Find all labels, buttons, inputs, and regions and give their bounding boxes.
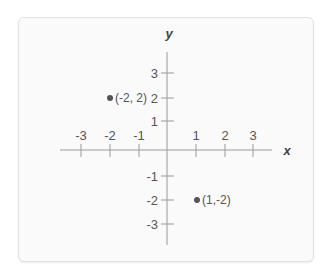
y-tick-label: -3 xyxy=(146,217,158,232)
coordinate-plane: -3 -2 -1 1 2 3 3 2 1 -1 -2 -3 y x (-2, 2… xyxy=(0,0,331,277)
x-tick-label: -1 xyxy=(133,128,145,143)
x-tick-label: -2 xyxy=(104,128,116,143)
x-tick-labels: -3 -2 -1 1 2 3 xyxy=(75,128,256,143)
y-tick-label: 1 xyxy=(151,114,158,129)
point-label: (-2, 2) xyxy=(115,91,147,105)
x-tick-label: -3 xyxy=(75,128,87,143)
y-axis-label: y xyxy=(164,26,173,41)
x-tick-label: 3 xyxy=(249,128,256,143)
x-axis-label: x xyxy=(282,143,291,158)
y-tick-label: -2 xyxy=(146,193,158,208)
y-tick-label: -1 xyxy=(146,169,158,184)
y-tick-labels: 3 2 1 -1 -2 -3 xyxy=(146,66,158,232)
point-label: (1,-2) xyxy=(202,193,231,207)
data-point xyxy=(107,95,113,101)
y-tick-label: 2 xyxy=(151,91,158,106)
x-tick-label: 1 xyxy=(192,128,199,143)
x-tick-label: 2 xyxy=(221,128,228,143)
data-point xyxy=(194,197,200,203)
y-tick-label: 3 xyxy=(151,66,158,81)
